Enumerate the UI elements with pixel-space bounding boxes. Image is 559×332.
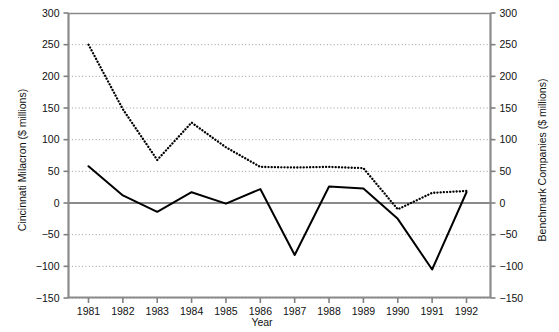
left-axis-title: Cincinnati Milacron ($ millions) [16, 89, 28, 231]
left-tick-label-100: 100 [42, 133, 60, 145]
left-tick-label-50: 50 [48, 165, 60, 177]
left-tick-label--100: −100 [36, 260, 60, 272]
x-tick-label-1991: 1991 [420, 305, 444, 317]
x-tick-label-1985: 1985 [214, 305, 238, 317]
right-tick-label--100: −100 [500, 260, 524, 272]
x-tick-label-1984: 1984 [180, 305, 204, 317]
x-tick-label-1989: 1989 [352, 305, 376, 317]
right-tick-label-300: 300 [500, 7, 518, 19]
right-tick-label-200: 200 [500, 70, 518, 82]
right-tick-label-100: 100 [500, 133, 518, 145]
left-tick-label-300: 300 [42, 7, 60, 19]
left-tick-label-200: 200 [42, 70, 60, 82]
left-tick-label-250: 250 [42, 38, 60, 50]
x-tick-label-1983: 1983 [146, 305, 170, 317]
right-tick-label--50: −50 [500, 228, 518, 240]
dual-axis-line-chart: 300250200150100500−50−100−150 3002502001… [0, 0, 559, 332]
left-tick-label-150: 150 [42, 102, 60, 114]
x-axis-title: Year [251, 316, 273, 328]
x-tick-label-1990: 1990 [386, 305, 410, 317]
left-tick-label--150: −150 [36, 292, 60, 304]
chart-background [0, 0, 559, 332]
right-tick-label-250: 250 [500, 38, 518, 50]
right-tick-label-50: 50 [500, 165, 512, 177]
x-tick-label-1982: 1982 [111, 305, 135, 317]
right-axis-title: Benchmark Companies ($ millions) [536, 79, 548, 242]
right-tick-label-0: 0 [500, 197, 506, 209]
left-tick-label-0: 0 [54, 197, 60, 209]
right-tick-label-150: 150 [500, 102, 518, 114]
x-tick-label-1987: 1987 [283, 305, 307, 317]
left-tick-label--50: −50 [42, 228, 60, 240]
chart-container: 300250200150100500−50−100−150 3002502001… [0, 0, 559, 332]
x-tick-label-1992: 1992 [455, 305, 479, 317]
x-tick-label-1988: 1988 [317, 305, 341, 317]
right-tick-label--150: −150 [500, 292, 524, 304]
x-tick-label-1981: 1981 [77, 305, 101, 317]
